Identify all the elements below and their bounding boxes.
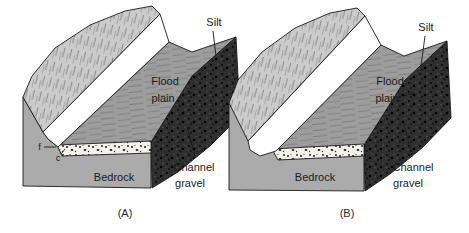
point-f-label: f	[38, 141, 41, 152]
flood-plain-label-line2: plain	[151, 92, 174, 104]
channel-gravel-label-line2: gravel	[393, 177, 423, 189]
channel-gravel-label-line2: gravel	[175, 177, 205, 189]
silt-label: Silt	[418, 21, 433, 33]
panel-a-caption: (A)	[118, 207, 133, 219]
bedrock-label: Bedrock	[295, 171, 336, 183]
panel-b-caption: (B)	[340, 207, 355, 219]
channel-gravel-label-line1: Channel	[393, 161, 434, 173]
figure-stage: Silt Flood plain f c Bedrock Channel gra…	[0, 0, 469, 233]
silt-label: Silt	[206, 16, 221, 28]
point-c-label: c	[56, 152, 61, 163]
bedrock-label: Bedrock	[94, 171, 135, 183]
channel-gravel-label-line1: Channel	[174, 161, 215, 173]
panel-a: Silt Flood plain f c Bedrock Channel gra…	[23, 6, 240, 219]
flood-plain-label-line2: plain	[375, 92, 398, 104]
flood-plain-label-line1: Flood	[151, 75, 179, 87]
panel-b: Silt Flood plain Bedrock Channel gravel …	[229, 8, 451, 219]
flood-plain-label-line1: Flood	[376, 75, 404, 87]
figure-canvas: Silt Flood plain f c Bedrock Channel gra…	[0, 0, 469, 233]
